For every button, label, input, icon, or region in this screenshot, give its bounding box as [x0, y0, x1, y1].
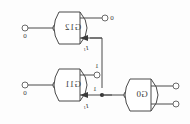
- gate-label-g11: G11: [65, 79, 81, 89]
- value-g11-stub: 1: [95, 62, 99, 70]
- gate-label-g12: G12: [65, 22, 81, 32]
- annotation-label-bottom: I1: [84, 102, 90, 111]
- annotation-label-top: I1: [84, 44, 90, 53]
- mirrored-text-layer: G12 G11 G0 0 0 0 1 1 I1 I1: [0, 0, 190, 124]
- value-input-bottom: 0: [23, 89, 27, 97]
- circuit-text-svg: G12 G11 G0 0 0 0 1 1 I1 I1: [0, 0, 190, 124]
- gate-label-g0: G0: [136, 89, 148, 99]
- value-junction: 1: [93, 85, 97, 93]
- value-output-top: 0: [110, 14, 114, 22]
- value-input-top: 0: [23, 32, 27, 40]
- circuit-diagram-canvas: G12 G11 G0 0 0 0 1 1 I1 I1: [0, 0, 190, 124]
